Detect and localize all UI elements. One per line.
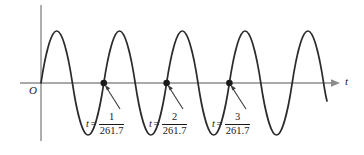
marker-label-1-numerator: 1: [107, 112, 116, 124]
marker-label-3: t = 3 261.7: [212, 112, 250, 136]
marker-label-1-fraction: 1 261.7: [99, 112, 125, 136]
marker-leader-arrowhead-3: [230, 85, 236, 91]
marker-label-2-numerator: 2: [170, 112, 179, 124]
marker-label-2-fraction: 2 261.7: [162, 112, 188, 136]
marker-label-1-var: t: [86, 119, 89, 130]
marker-label-2-var: t: [149, 119, 152, 130]
marker-label-3-var: t: [212, 119, 215, 130]
marker-label-3-denominator: 261.7: [225, 125, 251, 137]
sine-wave-figure: O t t = 1 261.7 t = 2 261.7 t = 3 261.7: [0, 0, 364, 155]
marker-label-2-denominator: 261.7: [162, 125, 188, 137]
marker-label-3-numerator: 3: [233, 112, 242, 124]
marker-label-2: t = 2 261.7: [149, 112, 187, 136]
marker-leader-arrowhead-2: [167, 85, 173, 91]
marker-label-1: t = 1 261.7: [86, 112, 124, 136]
marker-leader-line-1: [107, 88, 121, 110]
marker-label-3-equals: =: [216, 119, 222, 130]
marker-label-3-fraction: 3 261.7: [225, 112, 251, 136]
marker-leader-arrowhead-1: [105, 85, 111, 91]
marker-label-2-equals: =: [153, 119, 159, 130]
marker-dot-2: [163, 80, 170, 87]
marker-dot-3: [226, 80, 233, 87]
marker-leader-line-2: [169, 88, 183, 110]
x-axis-arrowhead: [331, 79, 340, 87]
origin-label: O: [29, 85, 37, 96]
marker-label-1-denominator: 261.7: [99, 125, 125, 137]
t-axis-label: t: [345, 76, 348, 87]
marker-leader-line-3: [232, 88, 246, 110]
marker-label-1-equals: =: [90, 119, 96, 130]
marker-dot-1: [101, 80, 108, 87]
